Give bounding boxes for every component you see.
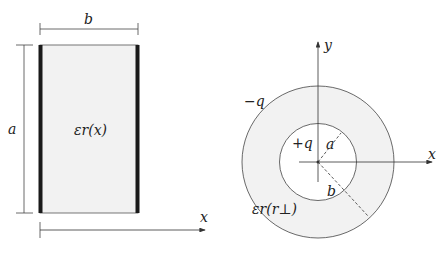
outer-charge-label: −q	[244, 93, 265, 109]
height-dimension	[16, 45, 33, 213]
x-axis-label-left: x	[200, 209, 208, 225]
parallel-plate-capacitor: b a εr(x) x	[8, 11, 208, 238]
inner-radius-label: a	[326, 136, 334, 152]
permittivity-label-left: εr(x)	[74, 122, 107, 138]
outer-radius-label: b	[327, 183, 336, 199]
left-plate	[39, 45, 43, 213]
right-plate	[136, 45, 140, 213]
width-label: b	[84, 11, 93, 27]
diagram-canvas: b a εr(x) x y x −q +q a b εr(r⊥)	[0, 0, 445, 253]
y-axis-label: y	[323, 37, 333, 53]
coaxial-capacitor: y x −q +q a b εr(r⊥)	[242, 37, 436, 238]
inner-charge-label: +q	[292, 135, 313, 151]
permittivity-label-right: εr(r⊥)	[252, 201, 297, 217]
x-axis-left	[40, 222, 205, 238]
x-axis-label-right: x	[428, 146, 436, 162]
height-label: a	[8, 121, 16, 137]
